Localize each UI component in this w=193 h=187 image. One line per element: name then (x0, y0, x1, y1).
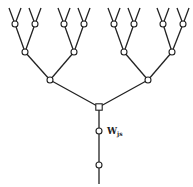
tree-edges (9, 8, 189, 184)
leaf-node (180, 21, 186, 27)
level2-node (121, 49, 127, 55)
weight-label: Wjs (106, 126, 123, 138)
tree-edge (25, 52, 50, 80)
binary-tree-diagram: Wjs (0, 0, 193, 187)
level3-node (145, 77, 151, 83)
leaf-node (81, 21, 87, 27)
tree-edge (172, 24, 183, 52)
tree-edge (50, 52, 74, 80)
level2-node (22, 49, 28, 55)
tree-edge (25, 24, 35, 52)
tree-edge (64, 24, 74, 52)
level3-node (47, 77, 53, 83)
tree-edge (114, 24, 124, 52)
stem-node (96, 162, 102, 168)
leaf-node (160, 21, 166, 27)
tree-edge (124, 52, 148, 80)
tree-edge (99, 80, 148, 107)
stem-node (96, 128, 102, 134)
tree-edge (74, 24, 84, 52)
leaf-node (61, 21, 67, 27)
leaf-node (12, 21, 18, 27)
tree-edge (50, 80, 99, 107)
leaf-node (111, 21, 117, 27)
tree-edge (15, 24, 25, 52)
level2-node (71, 49, 77, 55)
tree-edge (163, 24, 172, 52)
leaf-node (131, 21, 137, 27)
tree-edge (124, 24, 134, 52)
tree-edge (148, 52, 172, 80)
leaf-node (32, 21, 38, 27)
level2-node (169, 49, 175, 55)
root-square-node (96, 104, 102, 110)
